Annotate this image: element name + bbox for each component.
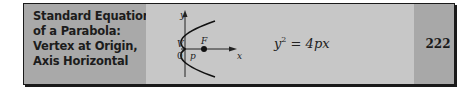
svg-text:p: p <box>190 51 196 61</box>
title-line-2: of a Parabola: <box>33 24 146 39</box>
title-line-3: Vertex at Origin, <box>33 39 146 54</box>
figure-panel: y x V F 0 p y2 = 4px <box>146 4 414 84</box>
svg-text:F: F <box>200 36 208 46</box>
formula-title: Standard Equation of a Parabola: Vertex … <box>24 4 146 84</box>
page-number: 222 <box>414 4 454 84</box>
svg-text:x: x <box>237 51 242 61</box>
title-line-4: Axis Horizontal <box>33 54 146 69</box>
svg-text:0: 0 <box>177 51 183 61</box>
title-line-1: Standard Equation <box>33 9 146 24</box>
svg-text:y: y <box>179 10 186 20</box>
parabola-equation: y2 = 4px <box>274 35 330 51</box>
parabola-diagram-icon: y x V F 0 p <box>171 7 251 81</box>
formula-card: Standard Equation of a Parabola: Vertex … <box>23 3 455 85</box>
